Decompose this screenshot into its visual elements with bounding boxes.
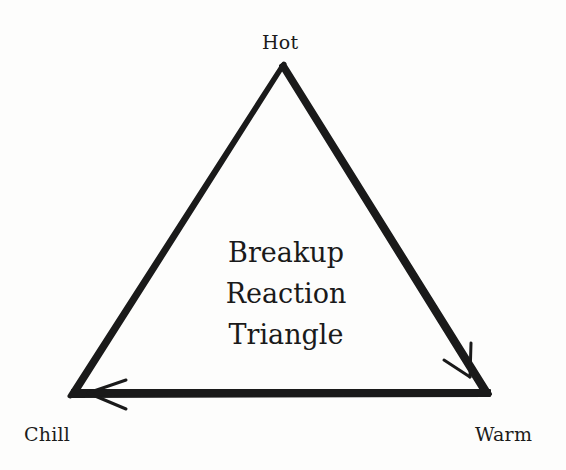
title-line-1: Breakup [196,232,376,273]
title-line-3: Triangle [196,314,376,355]
vertex-label-warm: Warm [475,423,532,445]
title-line-2: Reaction [196,273,376,314]
edge-warm-to-chill [72,390,490,397]
vertex-label-hot: Hot [262,31,298,53]
diagram-title: Breakup Reaction Triangle [196,232,376,355]
vertex-label-chill: Chill [24,423,70,445]
